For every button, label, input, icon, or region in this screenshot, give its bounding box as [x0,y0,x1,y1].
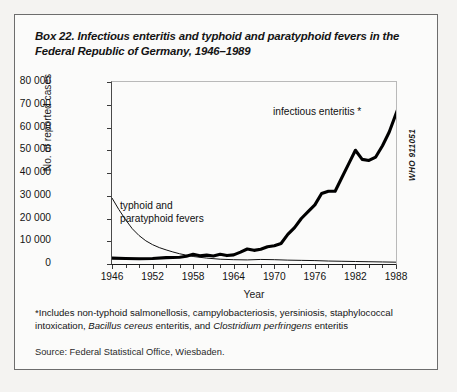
footnote: *Includes non-typhoid salmonellosis, cam… [35,306,425,332]
y-tick-label: 0 [0,257,51,268]
who-code-label: WHO 911051 [408,129,417,181]
annotation-typhoid-line1: typhoid and [120,200,173,211]
x-tick-label: 1952 [130,271,176,282]
y-tick-label: 50 000 [0,143,51,154]
y-tick-label: 20 000 [0,212,51,223]
x-tick-label: 1970 [251,271,297,282]
x-tick-label: 1946 [89,271,135,282]
y-tick-label: 30 000 [0,189,51,200]
y-tick-label: 60 000 [0,121,51,132]
footnote-species-1: Bacillus cereus [88,320,153,331]
x-tick-label: 1982 [332,271,378,282]
chart-area: No. of reported cases 010 00020 00030 00… [15,61,439,311]
y-tick-label: 70 000 [0,98,51,109]
x-tick-label: 1958 [170,271,216,282]
x-tick-label: 1988 [373,271,419,282]
box-container: Box 22. Infectious enteritis and typhoid… [14,14,438,370]
footnote-text-3: enteritis [312,320,348,331]
y-tick-label: 40 000 [0,166,51,177]
footnote-text-2: enteritis, and [153,320,213,331]
x-axis-label: Year [111,289,397,300]
footnote-species-2: Clostridium perfringens [213,320,312,331]
page-title: Box 22. Infectious enteritis and typhoid… [35,29,405,58]
annotation-infectious-enteritis: infectious enteritis * [273,106,361,117]
source-line: Source: Federal Statistical Office, Wies… [35,347,224,357]
annotation-typhoid-line2: paratyphoid fevers [120,213,204,224]
enteritis-series-line [112,96,396,259]
y-tick-label: 80 000 [0,75,51,86]
x-tick-label: 1976 [292,271,338,282]
x-tick-label: 1964 [211,271,257,282]
y-tick-label: 10 000 [0,234,51,245]
annotation-typhoid-fevers: typhoid and paratyphoid fevers [120,200,204,225]
